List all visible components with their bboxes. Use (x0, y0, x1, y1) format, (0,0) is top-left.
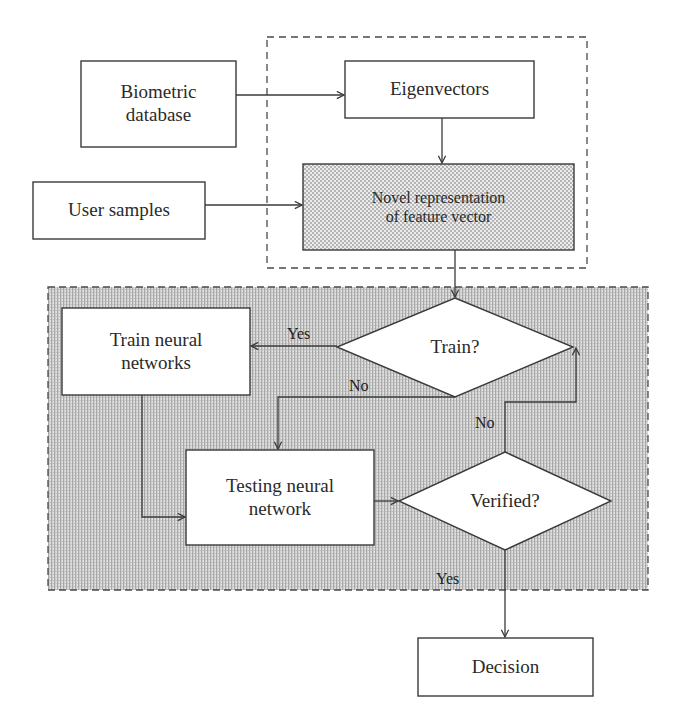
novel-representation-label: Novel representation of feature vector (303, 164, 574, 250)
biometric-database-label: Biometric database (81, 61, 236, 147)
eigenvectors-label: Eigenvectors (345, 61, 534, 118)
decision-label: Decision (418, 638, 593, 696)
verified-decision-label: Verified? (430, 484, 580, 518)
verified-yes-label: Yes (436, 570, 459, 588)
train-neural-networks-label: Train neural networks (62, 308, 250, 395)
train-yes-label: Yes (287, 325, 310, 343)
train-no-label: No (349, 377, 369, 395)
train-decision-label: Train? (380, 330, 530, 364)
testing-neural-network-label: Testing neural network (186, 450, 374, 545)
user-samples-label: User samples (33, 182, 205, 239)
verified-no-label: No (475, 414, 495, 432)
